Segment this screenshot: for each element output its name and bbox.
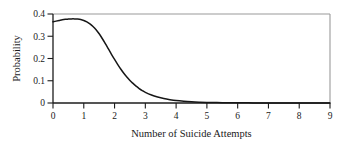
x-tick-label-2: 2 bbox=[112, 111, 117, 121]
x-tick-label-8: 8 bbox=[297, 111, 302, 121]
y-tick-label-0.3: 0.3 bbox=[33, 32, 45, 42]
x-tick-label-6: 6 bbox=[235, 111, 240, 121]
x-tick-label-0: 0 bbox=[51, 111, 56, 121]
probability-curve-chart: 0.4 0.3 0.2 0.1 0 0 1 2 3 4 5 6 7 8 9 Nu… bbox=[0, 0, 349, 145]
y-tick-label-0: 0 bbox=[40, 98, 45, 108]
x-axis-title: Number of Suicide Attempts bbox=[131, 128, 251, 139]
x-tick-label-9: 9 bbox=[328, 111, 333, 121]
x-tick-label-1: 1 bbox=[81, 111, 86, 121]
chart-figure: 0.4 0.3 0.2 0.1 0 0 1 2 3 4 5 6 7 8 9 Nu… bbox=[0, 0, 349, 145]
x-tick-label-5: 5 bbox=[205, 111, 210, 121]
x-axis-ticks bbox=[53, 103, 330, 109]
y-axis-ticks bbox=[48, 14, 54, 103]
x-tick-label-7: 7 bbox=[266, 111, 271, 121]
x-tick-label-4: 4 bbox=[174, 111, 179, 121]
y-axis-title: Probability bbox=[11, 34, 22, 81]
y-tick-label-0.4: 0.4 bbox=[33, 9, 45, 19]
x-tick-label-3: 3 bbox=[143, 111, 148, 121]
y-tick-label-0.2: 0.2 bbox=[33, 54, 45, 64]
y-tick-label-0.1: 0.1 bbox=[33, 76, 45, 86]
